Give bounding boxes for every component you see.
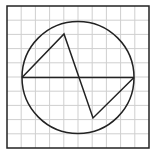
diagram-canvas bbox=[0, 0, 155, 152]
